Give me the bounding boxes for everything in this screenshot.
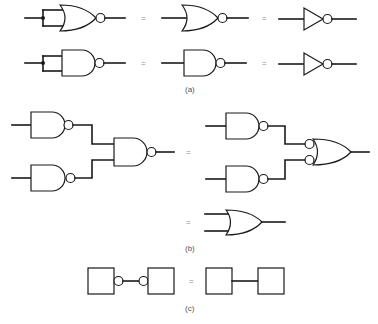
panel-c-direct-connection — [206, 268, 284, 294]
equals-sign: = — [262, 14, 267, 23]
panel-a-row-2: = = — [25, 50, 356, 76]
panel-b-nand-nand-network — [12, 112, 174, 191]
block — [258, 268, 284, 294]
equals-sign: = — [186, 148, 191, 157]
caption-a: (a) — [185, 85, 195, 94]
nor-gate — [162, 5, 248, 31]
block — [206, 268, 232, 294]
panel-c-double-inversion — [88, 268, 174, 294]
equals-sign: = — [141, 14, 146, 23]
equals-sign: = — [189, 277, 194, 286]
or-gate — [205, 210, 285, 235]
caption-b: (b) — [185, 244, 195, 253]
block — [88, 268, 114, 294]
not-gate — [279, 53, 356, 75]
not-gate — [279, 8, 356, 30]
equals-sign: = — [186, 218, 191, 227]
nand-gate-tied-inputs — [25, 50, 125, 76]
logic-gate-equivalence-diagram: = = = — [0, 0, 378, 324]
equals-sign: = — [141, 59, 146, 68]
caption-c: (c) — [185, 304, 195, 313]
nor-gate-tied-inputs — [25, 5, 125, 31]
panel-a-row-1: = = — [25, 5, 356, 31]
panel-b-nand-into-bubbled-or — [206, 113, 369, 192]
nand-gate — [162, 50, 246, 76]
equals-sign: = — [262, 59, 267, 68]
block — [148, 268, 174, 294]
